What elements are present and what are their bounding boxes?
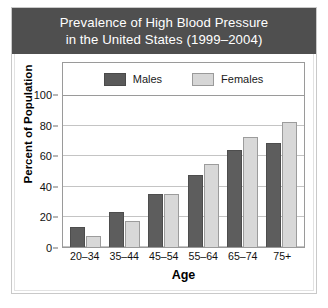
y-tick-mark-40 [53,186,58,187]
legend-label-males: Males [133,73,162,85]
legend-item-females: Females [192,73,263,86]
chart-title-banner: Prevalence of High Blood Pressure in the… [12,8,316,54]
bar-males-55-64 [188,175,203,247]
bar-females-55-64 [204,164,219,247]
plot-frame: Males Females [62,62,305,248]
y-tick-mark-80 [53,125,58,126]
bar-group-35-44 [105,96,144,247]
x-tick-label-65-74: 65–74 [223,250,263,262]
y-axis-tick-labels: 020406080100 [28,95,58,248]
bar-females-45-54 [164,194,179,247]
chart-figure: Prevalence of High Blood Pressure in the… [0,0,328,308]
chart-legend: Males Females [63,63,304,96]
y-tick-label-60: 60 [40,150,52,162]
plot-area [63,96,304,247]
x-tick-label-20-34: 20–34 [65,250,105,262]
y-tick-label-0: 0 [46,242,52,254]
legend-item-males: Males [104,73,162,86]
y-tick-label-20: 20 [40,211,52,223]
bar-group-45-54 [144,96,183,247]
bar-males-75+ [266,143,281,247]
legend-swatch-males [104,73,126,86]
bar-group-75+ [262,96,301,247]
bar-males-45-54 [148,194,163,247]
x-tick-label-35-44: 35–44 [105,250,145,262]
bar-group-65-74 [223,96,262,247]
x-tick-label-45-54: 45–54 [144,250,184,262]
y-tick-mark-100 [53,95,58,96]
bar-females-65-74 [243,137,258,247]
x-tick-label-75+: 75+ [263,250,303,262]
x-axis-title: Age [62,268,305,282]
y-tick-mark-60 [53,156,58,157]
y-tick-label-80: 80 [40,120,52,132]
bar-males-65-74 [227,150,242,247]
y-tick-mark-0 [53,248,58,249]
x-axis-tick-labels: 20–3435–4445–5455–6465–7475+ [62,250,305,262]
bar-group-55-64 [184,96,223,247]
page-title: Prevalence of High Blood Pressure in the… [54,14,275,49]
bar-females-75+ [282,122,297,247]
y-tick-mark-20 [53,217,58,218]
bar-groups [63,96,304,247]
legend-swatch-females [192,73,214,86]
y-tick-label-100: 100 [34,89,52,101]
legend-label-females: Females [221,73,263,85]
y-tick-label-40: 40 [40,181,52,193]
x-tick-label-55-64: 55–64 [184,250,224,262]
bar-males-35-44 [109,212,124,247]
bar-group-20-34 [66,96,105,247]
bar-females-20-34 [86,236,101,247]
bar-females-35-44 [125,221,140,247]
bar-males-20-34 [70,227,85,247]
